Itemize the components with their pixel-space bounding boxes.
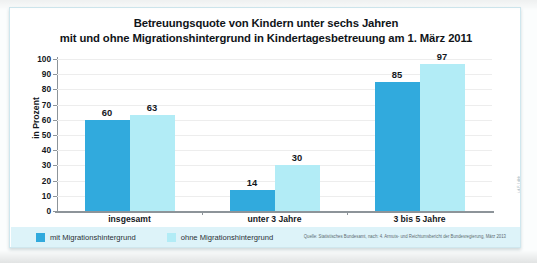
legend-label-mit: mit Migrationshintergrund [50, 233, 136, 242]
y-tick-mark [53, 74, 57, 75]
bar-ohne-2[interactable] [420, 64, 465, 211]
x-category-separator [202, 211, 203, 215]
y-tick-label-50: 50 [25, 130, 51, 140]
y-tick-mark [53, 59, 57, 60]
bar-mit-0[interactable] [85, 120, 130, 211]
y-tick-label-20: 20 [25, 176, 51, 186]
bar-value-label: 97 [437, 51, 447, 62]
legend-item-ohne[interactable]: ohne Migrationshintergrund [167, 233, 273, 242]
bar-ohne-0[interactable] [130, 115, 175, 211]
y-tick-label-40: 40 [25, 145, 51, 155]
y-tick-mark [53, 120, 57, 121]
bar-value-label: 63 [147, 102, 157, 113]
y-axis-tick-labels: 0102030405060708090100 [18, 8, 51, 248]
bar-value-label: 14 [247, 177, 257, 188]
x-axis-line [55, 211, 494, 213]
y-tick-mark [53, 105, 57, 106]
y-tick-label-60: 60 [25, 115, 51, 125]
plot-area: 606314308597 [57, 59, 492, 211]
y-tick-mark [53, 196, 57, 197]
bar-value-label: 85 [392, 69, 402, 80]
x-category-label-1: unter 3 Jahre [202, 214, 347, 224]
y-tick-label-0: 0 [25, 206, 51, 216]
bar-mit-1[interactable] [230, 190, 275, 211]
y-tick-mark [53, 89, 57, 90]
y-tick-label-70: 70 [25, 100, 51, 110]
y-tick-mark [53, 211, 57, 212]
x-category-label-0: insgesamt [57, 214, 202, 224]
x-category-separator [347, 211, 348, 215]
legend-swatch-ohne-icon [167, 233, 176, 242]
y-tick-label-90: 90 [25, 69, 51, 79]
bar-value-label: 30 [292, 152, 302, 163]
y-tick-label-10: 10 [25, 191, 51, 201]
y-tick-mark [53, 150, 57, 151]
scanned-page: Betreuungsquote von Kindern unter sechs … [0, 0, 537, 263]
legend-label-ohne: ohne Migrationshintergrund [181, 233, 273, 242]
bar-ohne-1[interactable] [275, 165, 320, 211]
source-note: Quelle: Statistisches Bundesamt, nach: 4… [304, 234, 506, 239]
legend-swatch-mit-icon [36, 233, 45, 242]
chart-title-line-1: Betreuungsquote von Kindern unter sechs … [134, 17, 399, 29]
y-tick-mark [53, 181, 57, 182]
bar-mit-2[interactable] [375, 82, 420, 211]
y-tick-label-80: 80 [25, 84, 51, 94]
x-category-label-2: 3 bis 5 Jahre [347, 214, 492, 224]
gridline [57, 59, 492, 60]
y-tick-label-100: 100 [25, 54, 51, 64]
y-tick-mark [53, 165, 57, 166]
edge-credit: i.d.F. / dbb [517, 176, 521, 193]
y-tick-label-30: 30 [25, 160, 51, 170]
chart-card: Betreuungsquote von Kindern unter sechs … [9, 7, 521, 248]
chart-title-line-2: mit und ohne Migrationshintergrund in Ki… [10, 31, 521, 46]
chart-title: Betreuungsquote von Kindern unter sechs … [10, 16, 521, 45]
bar-value-label: 60 [102, 107, 112, 118]
legend-item-mit[interactable]: mit Migrationshintergrund [36, 233, 136, 242]
y-tick-mark [53, 135, 57, 136]
